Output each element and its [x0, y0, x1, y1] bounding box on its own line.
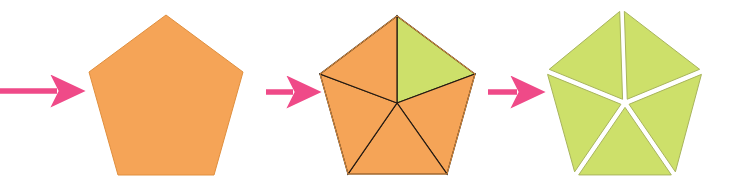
figure-canvas — [0, 0, 746, 193]
pentagon-sequence-figure — [0, 0, 746, 193]
